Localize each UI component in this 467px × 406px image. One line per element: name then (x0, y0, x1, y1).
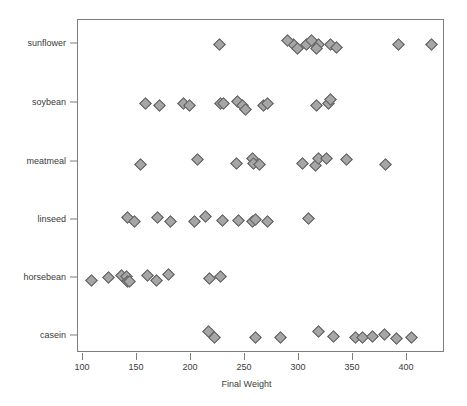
y-tick-mark (70, 43, 77, 44)
x-tick-label-250: 250 (236, 363, 251, 372)
y-tick-mark (70, 277, 77, 278)
x-tick-label-350: 350 (344, 363, 359, 372)
x-tick-mark (298, 353, 299, 360)
x-tick-mark (244, 353, 245, 360)
y-tick-mark (70, 219, 77, 220)
x-axis-title-label: Final Weight (222, 379, 272, 389)
x-tick-mark (406, 353, 407, 360)
x-tick-mark (352, 353, 353, 360)
y-tick-mark (70, 102, 77, 103)
y-tick-mark (70, 161, 77, 162)
x-tick-label-100: 100 (74, 363, 89, 372)
x-tick-mark (190, 353, 191, 360)
x-tick-label-150: 150 (128, 363, 143, 372)
y-tick-mark (70, 335, 77, 336)
x-tick-label-200: 200 (182, 363, 197, 372)
x-tick-label-300: 300 (290, 363, 305, 372)
x-tick-mark (82, 353, 83, 360)
x-tick-mark (136, 353, 137, 360)
x-tick-label-400: 400 (398, 363, 413, 372)
x-axis-title: Final Weight (0, 379, 467, 389)
chart-container: sunflowersoybeanmeatmeallinseedhorsebean… (0, 0, 467, 406)
x-axis: 100150200250300350400 (0, 0, 467, 406)
